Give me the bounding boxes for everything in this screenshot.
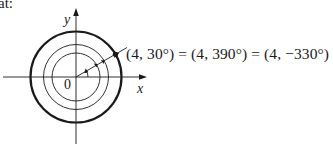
angle-arc-arrow-icon [84, 69, 88, 74]
polar-equivalence-equation: (4, 30°) = (4, 390°) = (4, −330°) [126, 46, 329, 62]
polar-diagram-graphic [0, 0, 333, 144]
lead-text: at: [0, 0, 13, 11]
x-axis-label: x [137, 82, 143, 96]
y-axis-label: y [64, 13, 70, 27]
y-axis-arrow-icon [73, 8, 79, 16]
ray-marker-icon [94, 64, 98, 68]
x-axis-arrow-icon [139, 74, 147, 80]
polar-diagram: at: y x 0 (4, 30°) = (4, 390°) = (4, −33… [0, 0, 333, 144]
origin-label: 0 [64, 78, 71, 92]
